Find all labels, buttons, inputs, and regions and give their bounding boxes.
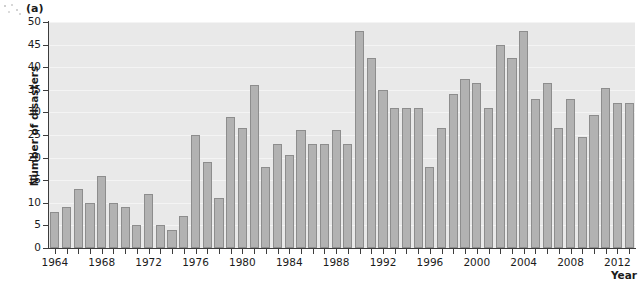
bar	[50, 212, 59, 248]
bar	[332, 130, 341, 248]
bar	[519, 31, 528, 248]
x-axis-tick	[231, 249, 232, 254]
x-axis-tick	[547, 249, 548, 254]
y-axis-tick	[43, 90, 48, 91]
y-axis-tick	[43, 158, 48, 159]
x-axis-tick-label: 2000	[455, 256, 499, 268]
x-axis-tick	[524, 249, 525, 254]
x-axis-tick	[559, 249, 560, 254]
y-axis-tick-label: 0	[1, 241, 41, 253]
bar	[589, 115, 598, 248]
bar	[97, 176, 106, 248]
x-axis-tick	[582, 249, 583, 254]
x-axis-tick-label: 1984	[267, 256, 311, 268]
bar-series	[49, 22, 635, 248]
x-axis-tick	[137, 249, 138, 254]
y-axis-tick-label: 10	[1, 196, 41, 208]
x-axis-tick	[535, 249, 536, 254]
y-axis-tick	[43, 135, 48, 136]
y-axis-tick-label: 35	[1, 83, 41, 95]
x-axis-tick	[489, 249, 490, 254]
x-axis-tick	[301, 249, 302, 254]
bar	[554, 128, 563, 248]
x-axis-tick	[348, 249, 349, 254]
y-axis-tick-label: 30	[1, 105, 41, 117]
x-axis-tick	[196, 249, 197, 254]
x-axis-tick	[500, 249, 501, 254]
x-axis-tick	[102, 249, 103, 254]
x-axis-tick	[149, 249, 150, 254]
y-axis-line	[48, 21, 49, 249]
x-axis-tick	[617, 249, 618, 254]
bar	[85, 203, 94, 248]
x-axis-tick-label: 2004	[502, 256, 546, 268]
y-axis-tick-labels: 05101520253035404550	[0, 0, 41, 288]
y-axis-tick	[43, 67, 48, 68]
x-axis-tick	[383, 249, 384, 254]
y-axis-tick-label: 5	[1, 218, 41, 230]
y-axis-tick	[43, 45, 48, 46]
y-axis-tick-label: 25	[1, 128, 41, 140]
bar	[191, 135, 200, 248]
bar	[179, 216, 188, 248]
x-axis-tick-label: 1996	[408, 256, 452, 268]
x-axis-tick	[606, 249, 607, 254]
x-axis-tick	[160, 249, 161, 254]
y-axis-tick	[43, 225, 48, 226]
bar	[121, 207, 130, 248]
x-axis-tick	[184, 249, 185, 254]
x-axis-tick	[172, 249, 173, 254]
bar	[320, 144, 329, 248]
y-axis-tick	[43, 112, 48, 113]
y-axis-tick	[43, 203, 48, 204]
x-axis-tick	[266, 249, 267, 254]
x-axis-tick-label: 2008	[549, 256, 593, 268]
bar	[296, 130, 305, 248]
x-axis-tick-label: 1980	[220, 256, 264, 268]
bar	[625, 103, 634, 248]
x-axis-tick-label: 2012	[595, 256, 639, 268]
y-axis-tick	[43, 22, 48, 23]
x-axis-tick	[442, 249, 443, 254]
bar	[355, 31, 364, 248]
x-axis-tick	[465, 249, 466, 254]
x-axis-tick	[336, 249, 337, 254]
x-axis-tick	[125, 249, 126, 254]
x-axis-tick	[289, 249, 290, 254]
y-axis-tick-label: 45	[1, 38, 41, 50]
bar	[531, 99, 540, 248]
x-axis-tick	[430, 249, 431, 254]
bar	[203, 162, 212, 248]
x-axis-tick-label: 1972	[127, 256, 171, 268]
x-axis-tick-label: 1968	[80, 256, 124, 268]
bar	[226, 117, 235, 248]
y-axis-tick-label: 20	[1, 151, 41, 163]
bar	[472, 83, 481, 248]
x-axis-tick	[219, 249, 220, 254]
bar	[402, 108, 411, 248]
x-axis-tick	[242, 249, 243, 254]
x-axis-tick	[324, 249, 325, 254]
x-axis-tick	[207, 249, 208, 254]
bar	[74, 189, 83, 248]
x-axis-tick-label: 1992	[361, 256, 405, 268]
bar	[507, 58, 516, 248]
bar	[437, 128, 446, 248]
bar	[601, 88, 610, 248]
bar	[214, 198, 223, 248]
x-axis-tick	[254, 249, 255, 254]
bar	[367, 58, 376, 248]
x-axis-tick	[67, 249, 68, 254]
y-axis-tick	[43, 180, 48, 181]
bar	[390, 108, 399, 248]
x-axis-tick	[278, 249, 279, 254]
x-axis-tick	[453, 249, 454, 254]
bar	[156, 225, 165, 248]
bar	[132, 225, 141, 248]
bar	[449, 94, 458, 248]
x-axis-tick-label: 1976	[174, 256, 218, 268]
bar	[238, 128, 247, 248]
bar	[109, 203, 118, 248]
bar	[425, 167, 434, 248]
bar	[378, 90, 387, 248]
